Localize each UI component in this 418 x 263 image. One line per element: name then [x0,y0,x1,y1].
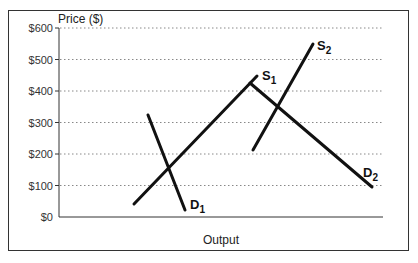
gridlines [60,28,384,186]
label-s1: S1 [262,68,277,86]
curve-s2 [253,44,313,150]
ytick-300: $300 [29,117,53,129]
label-d1: D1 [190,197,205,215]
y-axis-label: Price ($) [58,12,103,26]
curve-s1 [134,76,257,204]
ytick-0: $0 [41,211,53,223]
ytick-200: $200 [29,148,53,160]
ytick-100: $100 [29,180,53,192]
ytick-400: $400 [29,85,53,97]
label-s2: S2 [317,38,332,56]
curve-d1 [148,115,185,210]
curve-d2 [250,83,372,187]
ytick-600: $600 [29,22,53,34]
x-axis-label: Output [203,233,240,247]
chart-svg: $600 $500 $400 $300 $200 $100 $0 Price (… [0,0,418,263]
ytick-500: $500 [29,54,53,66]
